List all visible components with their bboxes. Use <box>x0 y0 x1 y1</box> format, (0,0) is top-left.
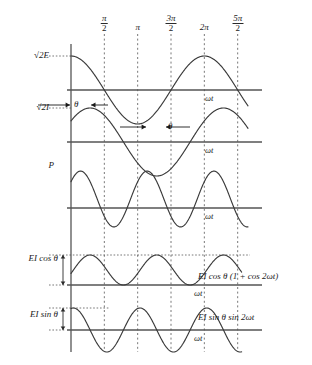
real-power-amplitude-label: EI cos θ <box>12 253 58 263</box>
theta-annotation-upper: θ <box>74 99 78 109</box>
theta-annotation-lower: θ <box>168 121 172 131</box>
reactive-power-equation-label: EI sin θ sin 2ωt <box>198 312 254 322</box>
omega-t-axis-label-current: ωt <box>205 145 213 155</box>
current-amplitude-label: √2I <box>27 102 49 112</box>
reactive-power-amplitude-measure-arrow[interactable] <box>61 308 66 330</box>
theta-arrow-upper-right[interactable] <box>91 103 108 108</box>
instantaneous-power-waveform[interactable] <box>71 171 248 227</box>
xtick-label-5pi-over-2: 5π2 <box>232 14 243 33</box>
real-power-amplitude-measure-arrow[interactable] <box>61 255 66 285</box>
xtick-label-pi-over-2: π2 <box>101 14 108 33</box>
xtick-label-2pi: 2π <box>200 22 209 32</box>
power-label: P <box>42 160 54 170</box>
xtick-label-pi: π <box>135 22 140 32</box>
theta-arrow-lower-left[interactable] <box>120 125 146 130</box>
omega-t-axis-label-real-power: ωt <box>194 288 202 298</box>
waveform-figure: π2 π 3π2 2π 5π2 √2E √2I P EI cos θ EI si… <box>0 0 312 365</box>
reactive-power-amplitude-label: EI sin θ <box>12 309 58 319</box>
voltage-amplitude-label: √2E <box>27 50 49 60</box>
real-power-equation-label: EI cos θ (1 + cos 2ωt) <box>198 271 278 281</box>
omega-t-axis-label-voltage: ωt <box>205 93 213 103</box>
omega-t-axis-label-reactive-power: ωt <box>194 333 202 343</box>
omega-t-axis-label-power: ωt <box>205 211 213 221</box>
xtick-label-3pi-over-2: 3π2 <box>165 14 176 33</box>
